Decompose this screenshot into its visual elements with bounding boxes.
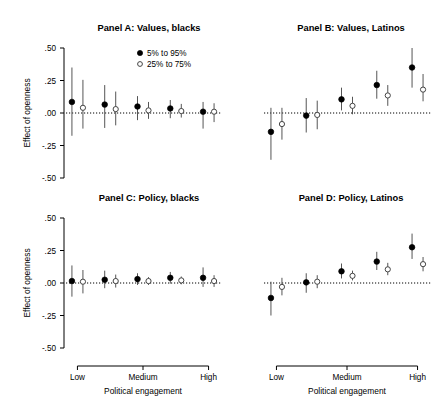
y-tick-label: -.25 bbox=[42, 312, 57, 321]
y-tick-label: -.50 bbox=[42, 344, 57, 353]
x-tick-label: High bbox=[409, 373, 426, 382]
four-panel-coefficient-plot: Panel A: Values, blacks.50.25.00-.25-.50… bbox=[0, 0, 439, 418]
point-marker-open bbox=[315, 112, 320, 117]
point-marker-open bbox=[146, 278, 151, 283]
point-marker-filled bbox=[374, 82, 380, 88]
y-tick-label: .50 bbox=[45, 214, 57, 223]
point-marker-filled bbox=[69, 99, 75, 105]
legend-label: 25% to 75% bbox=[147, 60, 191, 69]
point-marker-open bbox=[113, 107, 118, 112]
point-marker-open bbox=[385, 267, 390, 272]
point-marker-filled bbox=[102, 102, 108, 108]
point-marker-open bbox=[179, 108, 184, 113]
point-marker-open bbox=[113, 278, 118, 283]
point-marker-filled bbox=[303, 280, 309, 286]
point-marker-open bbox=[315, 279, 320, 284]
panel-title-b: Panel B: Values, Latinos bbox=[297, 23, 404, 33]
point-marker-filled bbox=[339, 269, 345, 275]
point-marker-filled bbox=[167, 106, 173, 112]
x-tick-label: Medium bbox=[332, 373, 361, 382]
point-marker-open bbox=[146, 108, 151, 113]
point-marker-open bbox=[80, 105, 85, 110]
point-marker-filled bbox=[200, 109, 206, 115]
point-marker-filled bbox=[339, 97, 345, 103]
point-marker-filled bbox=[167, 275, 173, 281]
point-marker-open bbox=[80, 279, 85, 284]
point-marker-open bbox=[420, 87, 425, 92]
y-axis-title-c: Effect of openness bbox=[22, 248, 32, 317]
y-axis-title-a: Effect of openness bbox=[22, 78, 32, 147]
legend-label: 5% to 95% bbox=[147, 49, 187, 58]
legend-marker-open bbox=[138, 62, 143, 67]
y-tick-label: .50 bbox=[45, 44, 57, 53]
point-marker-filled bbox=[409, 244, 415, 250]
point-marker-filled bbox=[268, 129, 274, 135]
point-marker-filled bbox=[69, 278, 75, 284]
legend-marker-filled bbox=[137, 50, 142, 55]
panel-title-c: Panel C: Policy, blacks bbox=[99, 193, 200, 203]
point-marker-open bbox=[385, 93, 390, 98]
x-tick-label: Medium bbox=[128, 373, 157, 382]
point-marker-open bbox=[279, 284, 284, 289]
point-marker-open bbox=[179, 278, 184, 283]
x-tick-label: Low bbox=[269, 373, 284, 382]
y-tick-label: .00 bbox=[45, 279, 57, 288]
y-tick-label: .00 bbox=[45, 109, 57, 118]
point-marker-open bbox=[211, 109, 216, 114]
y-tick-label: .25 bbox=[45, 247, 57, 256]
point-marker-open bbox=[350, 103, 355, 108]
y-tick-label: -.50 bbox=[42, 174, 57, 183]
point-marker-filled bbox=[268, 295, 274, 301]
point-marker-filled bbox=[200, 275, 206, 281]
x-axis-title-d: Political engagement bbox=[308, 386, 386, 396]
point-marker-filled bbox=[303, 113, 309, 119]
panel-title-d: Panel D: Policy, Latinos bbox=[299, 193, 404, 203]
y-tick-label: .25 bbox=[45, 77, 57, 86]
point-marker-filled bbox=[102, 277, 108, 283]
point-marker-open bbox=[350, 273, 355, 278]
figure-canvas: Panel A: Values, blacks.50.25.00-.25-.50… bbox=[0, 0, 439, 418]
y-tick-label: -.25 bbox=[42, 142, 57, 151]
x-tick-label: High bbox=[200, 373, 217, 382]
point-marker-filled bbox=[374, 259, 380, 265]
point-marker-filled bbox=[135, 276, 141, 282]
point-marker-open bbox=[420, 262, 425, 267]
x-axis-title-c: Political engagement bbox=[104, 386, 182, 396]
panel-title-a: Panel A: Values, blacks bbox=[97, 23, 200, 33]
point-marker-filled bbox=[409, 65, 415, 71]
point-marker-open bbox=[211, 278, 216, 283]
x-tick-label: Low bbox=[70, 373, 85, 382]
point-marker-open bbox=[279, 121, 284, 126]
point-marker-filled bbox=[135, 104, 141, 110]
